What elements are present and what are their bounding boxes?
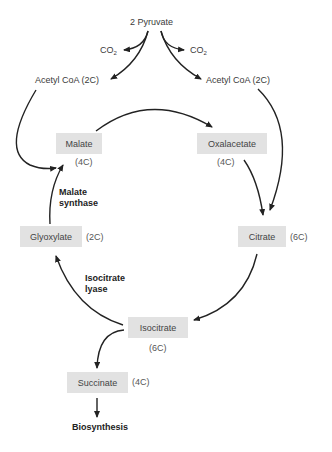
- node-succinate: Succinate: [67, 372, 128, 393]
- node-citrate: Citrate: [238, 226, 286, 247]
- enzyme-isocitrate-lyase: Isocitrate lyase: [85, 273, 125, 295]
- co2-left-label: CO2: [100, 45, 117, 59]
- malate-carbons: (4C): [75, 157, 93, 168]
- isocitrate-carbons: (6C): [149, 343, 167, 354]
- node-isocitrate: Isocitrate: [128, 317, 188, 338]
- node-glyoxylate: Glyoxylate: [20, 226, 82, 247]
- enzyme-malate-synthase: Malate synthase: [59, 187, 98, 209]
- acetyl-coa-left-label: Acetyl CoA (2C): [35, 75, 99, 86]
- glyoxylate-carbons: (2C): [86, 232, 104, 243]
- node-oxalacetate: Oxalacetate: [197, 133, 267, 154]
- node-malate: Malate: [56, 133, 102, 154]
- arrow-acetyl-to-malate: [16, 90, 56, 169]
- oxalacetate-carbons: (4C): [217, 157, 235, 168]
- pyruvate-label: 2 Pyruvate: [130, 17, 173, 28]
- arrow-malate-to-oxalacetate: [96, 109, 212, 131]
- arrow-isocitrate-to-succinate: [97, 330, 124, 368]
- arrow-oxalacetate-to-citrate: [244, 160, 263, 215]
- arrow-citrate-to-isocitrate: [194, 254, 257, 320]
- succinate-carbons: (4C): [132, 377, 150, 388]
- co2-right-label: CO2: [190, 45, 207, 59]
- biosynthesis-label: Biosynthesis: [72, 422, 128, 433]
- acetyl-coa-right-label: Acetyl CoA (2C): [206, 75, 270, 86]
- glyoxylate-cycle-diagram: 2 Pyruvate CO2 CO2 Acetyl CoA (2C) Acety…: [0, 0, 332, 452]
- citrate-carbons: (6C): [290, 232, 308, 243]
